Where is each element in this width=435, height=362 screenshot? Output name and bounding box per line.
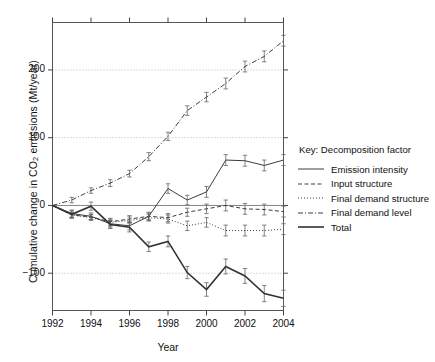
plot-frame [53, 23, 284, 311]
legend-label: Total [331, 222, 351, 233]
legend-item-total[interactable]: Total [297, 220, 435, 235]
legend-item-final-demand-level[interactable]: Final demand level [297, 206, 435, 221]
chart-figure: Cumulative change in CO2 emissions (Mt/y… [0, 0, 435, 362]
series-input-structure [53, 200, 286, 225]
x-tick-label: 2000 [189, 318, 225, 329]
legend-label: Final demand structure [331, 193, 429, 204]
line-dashdot-icon [297, 208, 325, 218]
y-tick-label: 0 [11, 199, 45, 210]
series-line [53, 41, 284, 206]
x-tick-label: 2002 [227, 318, 263, 329]
y-tick-label: −100 [11, 267, 45, 278]
y-tick-label: 200 [11, 63, 45, 74]
x-tick-label: 1992 [35, 318, 71, 329]
legend-label: Final demand level [331, 207, 412, 218]
x-tick-label: 2004 [266, 318, 302, 329]
x-tick-label: 1996 [112, 318, 148, 329]
x-tick-label: 1994 [73, 318, 109, 329]
legend-title: Key: Decomposition factor [299, 144, 435, 155]
series-final-demand-level [53, 35, 286, 205]
data-series [53, 35, 286, 306]
legend-label: Emission intensity [331, 164, 408, 175]
y-tick-label: 100 [11, 131, 45, 142]
line-dashed-icon [297, 179, 325, 189]
line-solid-icon [297, 164, 325, 174]
legend-item-emission-intensity[interactable]: Emission intensity [297, 162, 435, 177]
x-axis-label: Year [52, 341, 284, 353]
chart-legend: Key: Decomposition factor Emission inten… [297, 144, 435, 235]
axis-ticks [48, 18, 288, 316]
y-axis-label: Cumulative change in CO2 emissions (Mt/y… [27, 47, 40, 297]
legend-item-final-demand-structure[interactable]: Final demand structure [297, 191, 435, 206]
x-tick-label: 1998 [150, 318, 186, 329]
line-thick-icon [297, 222, 325, 232]
series-final-demand-structure [53, 205, 286, 235]
line-dotted-icon [297, 193, 325, 203]
legend-item-input-structure[interactable]: Input structure [297, 177, 435, 192]
legend-label: Input structure [331, 178, 392, 189]
